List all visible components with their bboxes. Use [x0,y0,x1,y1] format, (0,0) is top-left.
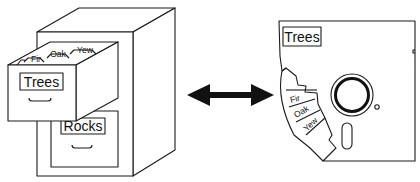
svg-text:Oak: Oak [50,49,66,59]
svg-text:Yew: Yew [77,45,94,55]
filing-cabinet: Rocks Yew Oak Fir Trees [8,8,175,176]
cabinet-side [133,8,175,176]
svg-text:Fir: Fir [31,54,41,64]
double-arrow-icon [187,84,274,106]
floppy-disk: Trees Fir Oak Yew [279,21,415,161]
disk-label: Trees [284,29,319,45]
drawer-label: Trees [24,74,59,90]
folder-fir[interactable]: Fir [289,93,301,105]
cabinet-disk-diagram: Rocks Yew Oak Fir Trees [0,0,420,182]
